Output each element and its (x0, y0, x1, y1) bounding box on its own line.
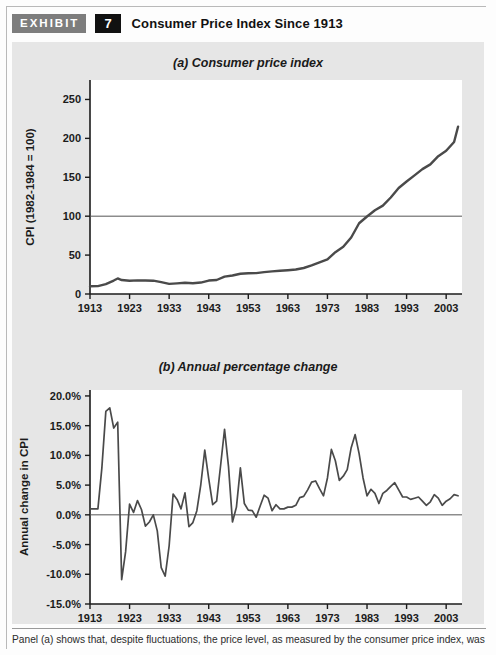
svg-text:1993: 1993 (394, 612, 418, 624)
svg-text:10.0%: 10.0% (50, 449, 81, 461)
svg-text:1963: 1963 (276, 612, 300, 624)
exhibit-caption: Panel (a) shows that, despite fluctuatio… (12, 633, 486, 646)
svg-text:5.0%: 5.0% (56, 479, 81, 491)
svg-text:-10.0%: -10.0% (46, 568, 81, 580)
page-rule-top (6, 6, 486, 7)
svg-text:1943: 1943 (196, 302, 220, 314)
svg-text:1973: 1973 (315, 612, 339, 624)
svg-text:1923: 1923 (117, 302, 141, 314)
caption-divider (12, 628, 486, 629)
svg-text:250: 250 (63, 93, 81, 105)
svg-text:1913: 1913 (78, 612, 102, 624)
svg-text:Annual change in CPI: Annual change in CPI (18, 438, 30, 556)
svg-text:1913: 1913 (78, 302, 102, 314)
svg-text:1983: 1983 (355, 612, 379, 624)
svg-text:1933: 1933 (157, 302, 181, 314)
panel-inner: (a) Consumer price index 050100150200250… (12, 42, 484, 624)
svg-text:20.0%: 20.0% (50, 390, 81, 402)
svg-text:2003: 2003 (434, 302, 458, 314)
exhibit-number-badge: 7 (95, 14, 120, 33)
chart-b-plot: -15.0%-10.0%-5.0%0.0%5.0%10.0%15.0%20.0%… (12, 376, 484, 624)
svg-text:1953: 1953 (236, 302, 260, 314)
chart-a-title: (a) Consumer price index (12, 56, 484, 70)
svg-text:15.0%: 15.0% (50, 420, 81, 432)
exhibit-title: Consumer Price Index Since 1913 (132, 16, 343, 31)
exhibit-header: EXHIBIT 7 Consumer Price Index Since 191… (12, 13, 343, 33)
svg-text:1943: 1943 (196, 612, 220, 624)
svg-text:0.0%: 0.0% (56, 509, 81, 521)
svg-text:2003: 2003 (434, 612, 458, 624)
svg-text:1933: 1933 (157, 612, 181, 624)
svg-text:1923: 1923 (117, 612, 141, 624)
svg-text:200: 200 (63, 132, 81, 144)
svg-text:1953: 1953 (236, 612, 260, 624)
exhibit-page: EXHIBIT 7 Consumer Price Index Since 191… (0, 0, 496, 655)
exhibit-tag-label: EXHIBIT (12, 14, 86, 33)
svg-text:1993: 1993 (394, 302, 418, 314)
page-rule-left (6, 6, 7, 649)
svg-text:-5.0%: -5.0% (52, 539, 81, 551)
svg-text:1973: 1973 (315, 302, 339, 314)
svg-text:150: 150 (63, 171, 81, 183)
svg-text:50: 50 (69, 249, 81, 261)
svg-text:1983: 1983 (355, 302, 379, 314)
svg-text:1963: 1963 (276, 302, 300, 314)
svg-text:100: 100 (63, 210, 81, 222)
svg-text:-15.0%: -15.0% (46, 598, 81, 610)
chart-a-plot: 0501001502002501913192319331943195319631… (12, 72, 484, 342)
svg-text:CPI (1982-1984 = 100): CPI (1982-1984 = 100) (24, 128, 36, 245)
chart-b-title: (b) Annual percentage change (12, 360, 484, 374)
svg-text:0: 0 (75, 288, 81, 300)
exhibit-panel: (a) Consumer price index 050100150200250… (12, 42, 484, 624)
